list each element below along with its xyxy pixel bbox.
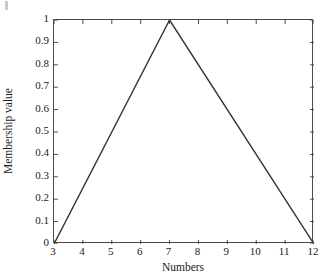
y-axis-title: Membership value bbox=[2, 88, 15, 174]
x-tick-label: 11 bbox=[279, 246, 290, 257]
x-axis-title: Numbers bbox=[53, 261, 313, 274]
y-tick-label: 0.7 bbox=[35, 80, 49, 91]
y-tick-label: 0.5 bbox=[35, 125, 49, 136]
x-tick-label: 12 bbox=[308, 246, 319, 257]
x-tick-label: 10 bbox=[250, 246, 261, 257]
y-tick-label: 0.4 bbox=[35, 147, 49, 158]
y-tick-label: 1 bbox=[44, 13, 50, 24]
y-tick-label: 0.6 bbox=[35, 103, 49, 114]
x-tick-label: 6 bbox=[137, 246, 143, 257]
x-tick-label: 3 bbox=[50, 246, 56, 257]
y-tick-label: 0.3 bbox=[35, 170, 49, 181]
x-tick-label: 8 bbox=[195, 246, 201, 257]
x-tick-label: 5 bbox=[108, 246, 114, 257]
x-tick-label: 4 bbox=[79, 246, 85, 257]
y-tick-label: 0.1 bbox=[35, 215, 49, 226]
membership-function-line bbox=[54, 20, 314, 244]
x-axis-tick-labels: 3456789101112 bbox=[0, 246, 336, 260]
x-tick-label: 7 bbox=[166, 246, 172, 257]
plot-area bbox=[53, 19, 313, 243]
y-tick-label: 0.2 bbox=[35, 192, 49, 203]
y-axis-title-wrap: Membership value bbox=[0, 19, 16, 243]
y-tick-label: 0.8 bbox=[35, 58, 49, 69]
figure-canvas: 00.10.20.30.40.50.60.70.80.91 3456789101… bbox=[0, 0, 336, 280]
y-tick-label: 0.9 bbox=[35, 35, 49, 46]
x-tick-label: 9 bbox=[224, 246, 230, 257]
plot-svg bbox=[54, 20, 314, 244]
axis-tick-marks bbox=[54, 20, 314, 244]
